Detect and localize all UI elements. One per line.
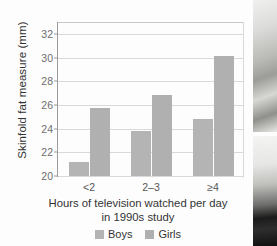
legend-swatch-boys — [95, 230, 104, 239]
photo-bottom-image — [253, 136, 277, 246]
chart-legend: BoysGirls — [30, 228, 246, 240]
legend-label: Boys — [108, 228, 132, 240]
gridline — [58, 176, 244, 177]
bar-chart: Skinfold fat measure (mm) 20222426283032… — [0, 0, 253, 246]
y-axis-tick-mark — [54, 176, 58, 177]
gridline — [58, 34, 244, 35]
bar-boys-0 — [69, 162, 89, 176]
x-axis-tick-label: ≥4 — [207, 181, 219, 193]
y-axis-tick-label: 32 — [41, 28, 53, 40]
legend-label: Girls — [158, 228, 181, 240]
y-axis-tick-mark — [54, 81, 58, 82]
bar-girls-2 — [214, 56, 234, 176]
y-axis-tick-label: 24 — [41, 123, 53, 135]
y-axis-label: Skinfold fat measure (mm) — [16, 10, 28, 170]
x-axis-title-line2: in 1990s study — [30, 210, 246, 224]
y-axis-tick-mark — [54, 152, 58, 153]
plot-area: 20222426283032<22–3≥4 — [57, 22, 244, 177]
legend-item-boys: Boys — [95, 228, 132, 240]
bar-girls-1 — [152, 95, 172, 176]
chart-page: Skinfold fat measure (mm) 20222426283032… — [0, 0, 277, 246]
x-axis-title-line1: Hours of television watched per day — [30, 196, 246, 210]
y-axis-tick-mark — [54, 33, 58, 34]
legend-swatch-girls — [145, 230, 154, 239]
bar-boys-1 — [131, 131, 151, 176]
y-axis-tick-label: 26 — [41, 99, 53, 111]
y-axis-tick-label: 30 — [41, 52, 53, 64]
y-axis-tick-mark — [54, 57, 58, 58]
photo-top-image — [253, 0, 277, 132]
y-axis-tick-mark — [54, 104, 58, 105]
photo-strip — [253, 0, 277, 246]
bar-girls-0 — [90, 108, 110, 176]
x-axis-title: Hours of television watched per day in 1… — [30, 196, 246, 224]
y-axis-tick-label: 22 — [41, 146, 53, 158]
y-axis-tick-mark — [54, 128, 58, 129]
x-axis-tick-label: 2–3 — [142, 181, 160, 193]
y-axis-tick-label: 28 — [41, 75, 53, 87]
x-axis-tick-label: <2 — [83, 181, 95, 193]
legend-item-girls: Girls — [145, 228, 181, 240]
bar-boys-2 — [193, 119, 213, 176]
y-axis-tick-label: 20 — [41, 170, 53, 182]
